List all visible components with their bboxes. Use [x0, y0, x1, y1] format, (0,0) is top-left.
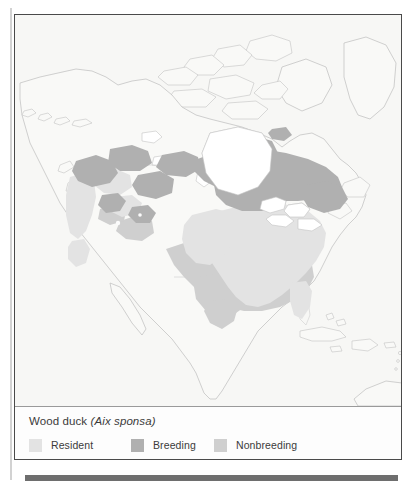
caption-scientific-name: (Aix sponsa): [91, 415, 156, 427]
legend-item-nonbreeding: Nonbreeding: [214, 437, 297, 453]
legend-item-resident: Resident: [29, 437, 131, 453]
legend-label-resident: Resident: [51, 439, 93, 451]
page-bottom-bar: [25, 475, 398, 481]
range-map-figure: .coast { fill: #f9f9f7; stroke: #bdbdbd;…: [14, 14, 402, 460]
legend-item-breeding: Breeding: [131, 437, 214, 453]
legend-label-nonbreeding: Nonbreeding: [236, 439, 297, 451]
figure-caption: Wood duck (Aix sponsa): [29, 415, 156, 427]
legend-swatch-resident: [29, 439, 42, 452]
legend-label-breeding: Breeding: [153, 439, 196, 451]
page-left-rule: [10, 8, 12, 480]
map-legend: Resident Breeding Nonbreeding: [29, 437, 297, 453]
caption-area: Wood duck (Aix sponsa) Resident Breeding…: [15, 407, 401, 459]
caption-common-name: Wood duck: [29, 415, 87, 427]
legend-swatch-breeding: [131, 439, 144, 452]
north-america-range-map-svg: .coast { fill: #f9f9f7; stroke: #bdbdbd;…: [15, 15, 401, 406]
map-canvas: .coast { fill: #f9f9f7; stroke: #bdbdbd;…: [15, 15, 401, 406]
legend-swatch-nonbreeding: [214, 439, 227, 452]
